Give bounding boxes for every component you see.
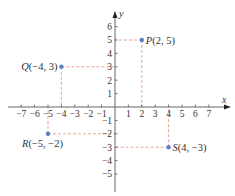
x-tick-label: −2 <box>83 109 93 119</box>
coordinate-plane-svg: xy−7−6−5−4−3−2−11234567654321−1−2−3−4−5P… <box>0 0 235 196</box>
y-tick-label: 6 <box>107 22 112 32</box>
y-tick-label: 1 <box>107 89 112 99</box>
y-tick-label: −2 <box>102 129 112 139</box>
x-tick-label: −3 <box>70 109 80 119</box>
x-tick-label: 6 <box>193 109 198 119</box>
x-tick-label: −5 <box>43 109 53 119</box>
y-axis-arrow-icon <box>113 11 118 18</box>
point-label-p: P(2, 5) <box>145 35 176 47</box>
point-label-q: Q(−4, 3) <box>21 61 58 73</box>
y-tick-label: 4 <box>107 49 112 59</box>
x-tick-label: 2 <box>139 109 144 119</box>
point-label-r: R(−5, −2) <box>21 138 64 150</box>
y-tick-label: 3 <box>107 62 112 72</box>
y-tick-label: −4 <box>102 156 112 166</box>
x-tick-label: −6 <box>30 109 40 119</box>
y-tick-label: 5 <box>107 35 112 45</box>
coordinate-plane-diagram: xy−7−6−5−4−3−2−11234567654321−1−2−3−4−5P… <box>0 0 235 196</box>
y-axis-label: y <box>118 8 124 19</box>
x-tick-label: 5 <box>180 109 185 119</box>
x-tick-label: 7 <box>206 109 211 119</box>
x-tick-label: −7 <box>16 109 26 119</box>
x-tick-label: 1 <box>126 109 131 119</box>
y-tick-label: 2 <box>107 76 112 86</box>
y-tick-label: −3 <box>102 143 112 153</box>
y-tick-label: −5 <box>102 169 112 179</box>
x-axis-arrow-icon <box>224 105 231 110</box>
x-axis-label: x <box>221 94 227 105</box>
x-tick-label: 4 <box>166 109 171 119</box>
point-p <box>140 38 144 42</box>
point-s <box>166 145 170 149</box>
x-tick-label: 3 <box>153 109 158 119</box>
point-r <box>46 132 50 136</box>
point-label-s: S(4, −3) <box>173 142 207 154</box>
y-tick-label: −1 <box>102 116 112 126</box>
x-tick-label: −4 <box>56 109 66 119</box>
point-q <box>59 65 63 69</box>
